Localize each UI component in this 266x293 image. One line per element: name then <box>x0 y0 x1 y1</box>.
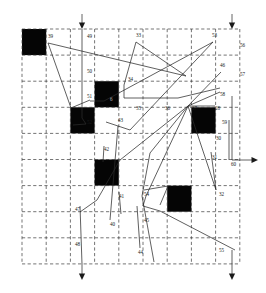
net-46-fan <box>142 72 221 262</box>
label-37: 37 <box>192 105 198 111</box>
label-47: 47 <box>75 206 81 212</box>
net-47-48 <box>80 206 82 264</box>
label-39: 39 <box>48 33 54 39</box>
obstacle-r5c3 <box>95 160 119 186</box>
net-37-cross3 <box>143 106 235 250</box>
label-28: 28 <box>215 105 221 111</box>
routing-canvas: 3949335356504657345165835363728524359304… <box>0 0 266 293</box>
label-45: 45 <box>144 217 150 223</box>
label-42: 42 <box>104 146 110 152</box>
obstacle-r3c7 <box>191 107 215 133</box>
label-52: 52 <box>87 119 93 125</box>
label-57: 57 <box>240 71 246 77</box>
label-56: 56 <box>240 42 246 48</box>
grid-routing-figure: 3949335356504657345165835363728524359304… <box>0 0 266 293</box>
label-30: 30 <box>216 135 222 141</box>
label-55: 55 <box>219 247 225 253</box>
label-40: 40 <box>110 221 116 227</box>
grid-layer <box>22 29 240 264</box>
label-49: 49 <box>87 33 93 39</box>
label-51: 51 <box>87 93 93 99</box>
net-layer <box>48 29 240 264</box>
label-34: 34 <box>128 76 134 82</box>
net-60 <box>232 96 240 160</box>
label-50: 50 <box>87 68 93 74</box>
net-50-33 <box>48 42 186 76</box>
obstacle-r2c3 <box>95 81 119 107</box>
label-59: 59 <box>222 119 228 125</box>
output-arrow-bottom-right <box>229 274 235 281</box>
input-arrow-top-right <box>229 23 235 30</box>
net-33-branch <box>124 42 220 98</box>
label-41: 41 <box>119 193 125 199</box>
label-33: 33 <box>136 32 142 38</box>
label-54: 54 <box>144 191 150 197</box>
label-35: 35 <box>136 105 142 111</box>
output-arrow-bottom-left <box>79 274 85 281</box>
net-39 <box>48 43 90 108</box>
label-31: 31 <box>212 154 218 160</box>
label-36: 36 <box>165 105 171 111</box>
label-58: 58 <box>220 91 226 97</box>
label-46: 46 <box>220 62 226 68</box>
output-arrow-right <box>252 157 259 163</box>
obstacle-r6c6 <box>167 186 191 212</box>
net-44 <box>137 206 140 248</box>
label-44: 44 <box>138 249 144 255</box>
label-43: 43 <box>118 117 124 123</box>
label-60: 60 <box>231 161 237 167</box>
input-arrow-top-left <box>79 23 85 30</box>
label-32: 32 <box>219 191 225 197</box>
obstacle-r0c0 <box>22 29 46 55</box>
label-48: 48 <box>75 241 81 247</box>
label-53: 53 <box>212 32 218 38</box>
